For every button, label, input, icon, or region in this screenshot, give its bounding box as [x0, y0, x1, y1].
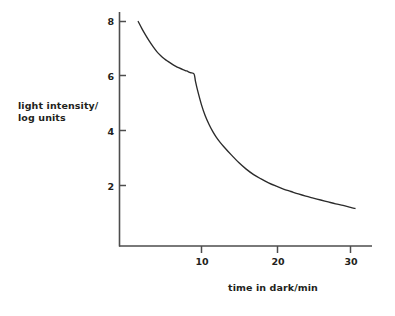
- y-tick-label-4: 4: [100, 126, 114, 137]
- chart-figure: 8 6 4 2 10 20 30 light intensity/ log un…: [0, 0, 395, 316]
- x-tick-label-10: 10: [192, 256, 212, 267]
- x-tick-label-20: 20: [268, 256, 288, 267]
- x-axis-title: time in dark/min: [228, 282, 388, 294]
- x-tick-label-30: 30: [341, 256, 361, 267]
- y-tick-label-8: 8: [100, 16, 114, 27]
- y-tick-label-6: 6: [100, 71, 114, 82]
- plot-area: [0, 0, 395, 316]
- y-axis-title: light intensity/ log units: [18, 100, 114, 124]
- x-tick-marks: [202, 246, 351, 253]
- y-tick-label-2: 2: [100, 181, 114, 192]
- data-series-line: [138, 22, 355, 209]
